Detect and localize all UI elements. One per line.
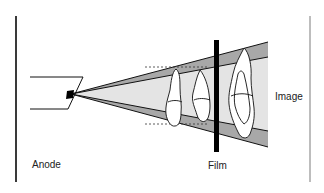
- film-label: Film: [208, 161, 227, 171]
- anode-label: Anode: [32, 160, 61, 170]
- film: [214, 40, 219, 152]
- image-label: Image: [275, 92, 303, 102]
- focal-spot: [66, 90, 74, 99]
